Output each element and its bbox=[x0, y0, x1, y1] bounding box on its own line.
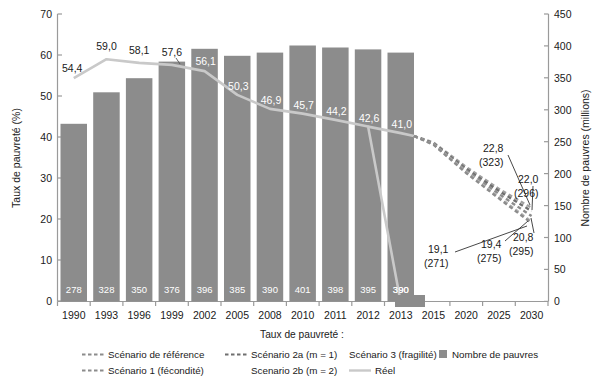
y-axis-left: 70 60 50 40 30 20 10 0 bbox=[40, 8, 62, 307]
reel-label-1996: 58,1 bbox=[129, 44, 150, 56]
poverty-rate-chart: 70 60 50 40 30 20 10 0 Taux de pauvreté … bbox=[0, 0, 601, 382]
reel-label-1999: 57,6 bbox=[162, 46, 183, 58]
x-axis-caption: Taux de pauvreté : bbox=[260, 329, 344, 340]
reel-label-1990: 54,4 bbox=[62, 62, 83, 74]
bar-label-2002: 396 bbox=[197, 284, 213, 295]
reel-label-2013: 41,0 bbox=[392, 118, 413, 130]
y-right-tick-50: 50 bbox=[554, 263, 566, 275]
bar-label-1996: 350 bbox=[131, 284, 147, 295]
reel-label-2012: 42,6 bbox=[359, 112, 380, 124]
chart-svg: 70 60 50 40 30 20 10 0 Taux de pauvreté … bbox=[0, 0, 601, 382]
y-left-tick-30: 30 bbox=[40, 172, 52, 184]
x-tick-2011: 2011 bbox=[324, 309, 347, 321]
y-left-tick-20: 20 bbox=[40, 213, 52, 225]
y-right-tick-350: 350 bbox=[554, 72, 572, 84]
y-right-tick-100: 100 bbox=[554, 232, 572, 244]
y-left-tick-60: 60 bbox=[40, 49, 52, 61]
bar-2002 bbox=[191, 49, 218, 302]
y-right-tick-250: 250 bbox=[554, 136, 572, 148]
y-right-tick-450: 450 bbox=[554, 8, 572, 20]
legend-label-scenario-3[interactable]: Scénario 3 (fragilité) bbox=[349, 349, 437, 360]
line-scenario-1-fecondite bbox=[414, 136, 532, 223]
x-tick-2002: 2002 bbox=[193, 309, 217, 321]
legend-label-reel[interactable]: Réel bbox=[375, 365, 395, 376]
x-tick-1999: 1999 bbox=[160, 309, 184, 321]
bar-2011 bbox=[322, 48, 349, 302]
legend-label-scenario-reference[interactable]: Scénario de référence bbox=[108, 349, 205, 360]
x-tick-2030: 2030 bbox=[520, 309, 544, 321]
annot-19-4-value: 19,4 bbox=[481, 238, 502, 250]
y-axis-right-title: Nombre de pauvres (millions) bbox=[579, 89, 591, 226]
legend-label-scenario-2b[interactable]: Scenario 2b (m = 2) bbox=[251, 365, 337, 376]
x-tick-2010: 2010 bbox=[291, 309, 315, 321]
bar-label-2008: 390 bbox=[262, 284, 278, 295]
bar-label-1990: 278 bbox=[66, 284, 82, 295]
bar-label-2013-redraw: 390 bbox=[393, 284, 409, 295]
x-tick-1996: 1996 bbox=[128, 309, 152, 321]
projection-lines bbox=[414, 136, 532, 223]
bar-1999 bbox=[159, 62, 186, 302]
y-axis-left-title: Taux de pauvreté (%) bbox=[10, 108, 22, 208]
legend-label-nombre-de-pauvres[interactable]: Nombre de pauvres bbox=[452, 349, 538, 360]
reel-label-2008: 46,9 bbox=[261, 94, 282, 106]
annot-20-8-sec: (295) bbox=[509, 245, 534, 257]
x-tick-2025: 2025 bbox=[487, 309, 511, 321]
x-tick-2013: 2013 bbox=[389, 309, 413, 321]
legend-label-scenario-2a[interactable]: Scénario 2a (m = 1) bbox=[251, 349, 337, 360]
annot-19-4-sec: (275) bbox=[477, 252, 502, 264]
y-right-tick-0: 0 bbox=[554, 295, 560, 307]
bar-1996 bbox=[126, 78, 152, 301]
bar-label-2011: 398 bbox=[327, 284, 343, 295]
y-left-tick-70: 70 bbox=[40, 8, 52, 20]
legend-marker-nombre-de-pauvres bbox=[439, 350, 447, 358]
x-tick-2012: 2012 bbox=[356, 309, 380, 321]
reel-label-1993: 59,0 bbox=[96, 40, 117, 52]
x-tick-2015: 2015 bbox=[422, 309, 446, 321]
bar-label-2012: 395 bbox=[360, 284, 376, 295]
bar-2008 bbox=[257, 53, 284, 302]
y-right-tick-150: 150 bbox=[554, 200, 572, 212]
y-axis-right: 450 400 350 300 250 200 150 100 50 0 bbox=[544, 8, 572, 307]
annot-22-8-value: 22,8 bbox=[483, 142, 504, 154]
annot-19-1-sec: (271) bbox=[424, 257, 449, 269]
y-right-tick-400: 400 bbox=[554, 40, 572, 52]
line-scenario-2a bbox=[414, 136, 532, 211]
annot-22-8-sec: (323) bbox=[479, 156, 504, 168]
line-reel-mask bbox=[395, 295, 425, 307]
reel-label-2002: 56,1 bbox=[195, 55, 216, 67]
y-left-tick-50: 50 bbox=[40, 90, 52, 102]
annot-19-1-value: 19,1 bbox=[428, 243, 449, 255]
x-tick-1993: 1993 bbox=[95, 309, 119, 321]
y-left-tick-10: 10 bbox=[40, 254, 52, 266]
x-axis: 1990 1993 1996 1999 2002 2005 2008 2010 … bbox=[58, 302, 549, 322]
reel-label-2005: 50,3 bbox=[228, 80, 249, 92]
annot-20-8-value: 20,8 bbox=[513, 231, 534, 243]
x-tick-2020: 2020 bbox=[455, 309, 479, 321]
x-tick-2005: 2005 bbox=[226, 309, 250, 321]
bar-1993 bbox=[93, 92, 120, 301]
annot-22-0-value: 22,0 bbox=[518, 173, 539, 185]
bar-2013 bbox=[388, 53, 415, 302]
annot-22-0-sec: (296) bbox=[514, 187, 539, 199]
x-tick-2008: 2008 bbox=[258, 309, 282, 321]
bar-label-2005: 385 bbox=[229, 284, 245, 295]
y-right-tick-200: 200 bbox=[554, 168, 572, 180]
y-left-tick-0: 0 bbox=[46, 295, 52, 307]
reel-label-2011: 44,2 bbox=[326, 105, 347, 117]
y-left-tick-40: 40 bbox=[40, 131, 52, 143]
y-right-tick-300: 300 bbox=[554, 104, 572, 116]
bar-2010 bbox=[289, 46, 316, 302]
x-tick-1990: 1990 bbox=[62, 309, 86, 321]
reel-label-2010: 45,7 bbox=[293, 99, 314, 111]
bar-label-2010: 401 bbox=[295, 284, 311, 295]
bar-label-1993: 328 bbox=[99, 284, 115, 295]
bar-2005 bbox=[224, 56, 251, 302]
legend: Scénario de référence Scénario 2a (m = 1… bbox=[82, 349, 538, 376]
bar-1990 bbox=[61, 124, 88, 302]
legend-label-scenario-1[interactable]: Scénario 1 (fécondité) bbox=[108, 365, 204, 376]
bar-label-1999: 376 bbox=[164, 284, 180, 295]
